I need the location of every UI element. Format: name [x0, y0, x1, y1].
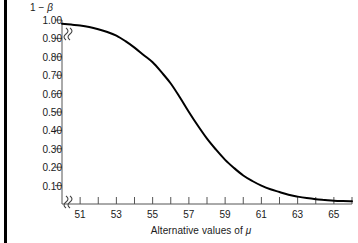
y-axis-tick-label: 1.00	[22, 15, 62, 26]
x-axis-tick-label: 53	[101, 209, 131, 220]
x-axis-break-symbol	[64, 196, 72, 208]
x-axis-tick-label: 59	[210, 209, 240, 220]
power-curve-figure: 1 − β Alternative values of μ 0.100.200.…	[0, 0, 358, 243]
x-axis-tick-label: 61	[246, 209, 276, 220]
y-axis-tick-label: 0.50	[22, 107, 62, 118]
y-axis-tick-label: 0.40	[22, 125, 62, 136]
x-axis-tick-label: 55	[138, 209, 168, 220]
y-axis-tick-label: 0.80	[22, 51, 62, 62]
y-axis-tick-label: 0.60	[22, 88, 62, 99]
power-curve-line	[62, 24, 352, 202]
y-axis-tick-label: 0.70	[22, 70, 62, 81]
y-axis-tick-label: 0.90	[22, 33, 62, 44]
x-axis-tick-label: 57	[174, 209, 204, 220]
x-axis-tick-label: 65	[319, 209, 349, 220]
y-axis-tick-label: 0.30	[22, 143, 62, 154]
x-axis-tick-label: 63	[283, 209, 313, 220]
x-axis-tick-label: 51	[65, 209, 95, 220]
y-axis-break-symbol	[64, 28, 72, 40]
y-axis-tick-label: 0.10	[22, 180, 62, 191]
y-axis-tick-label: 0.20	[22, 162, 62, 173]
